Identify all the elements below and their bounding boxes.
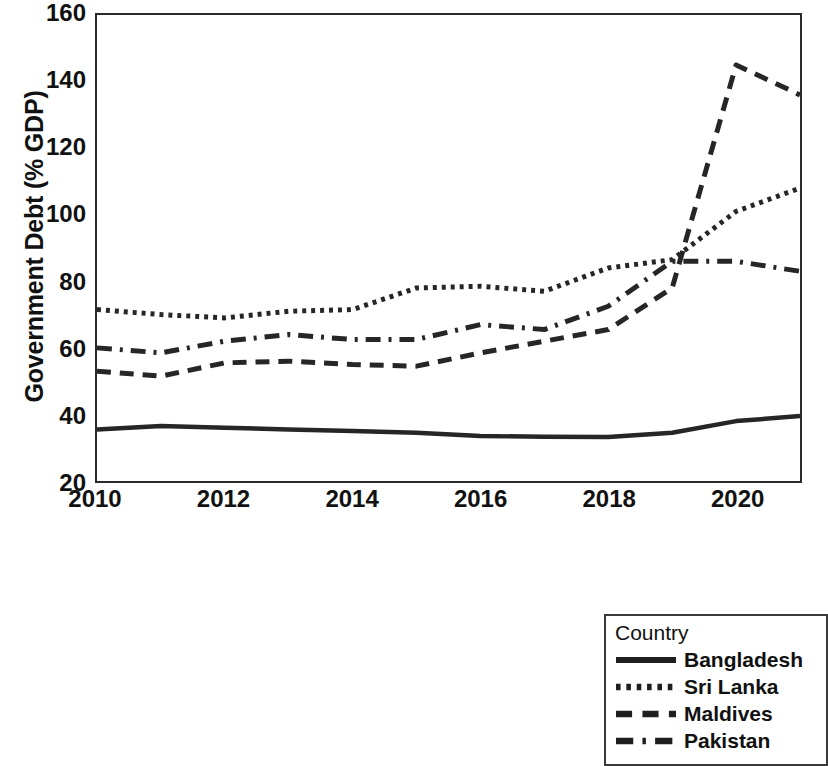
legend-item[interactable]: Maldives xyxy=(615,700,826,727)
y-tick-label: 160 xyxy=(8,1,86,25)
legend-item-label: Sri Lanka xyxy=(684,676,779,697)
series-line-pakistan xyxy=(97,261,800,353)
x-tick-label: 2020 xyxy=(678,487,798,511)
legend-item[interactable]: Sri Lanka xyxy=(615,673,826,700)
legend-title: Country xyxy=(615,621,826,644)
legend-line-swatch-pakistan xyxy=(615,731,677,751)
y-axis-title: Government Debt (% GDP) xyxy=(20,27,49,467)
legend-item-label: Bangladesh xyxy=(684,649,803,670)
series-line-maldives xyxy=(97,65,800,376)
plot-area xyxy=(95,13,802,483)
y-tick-label: 80 xyxy=(8,270,86,294)
y-tick-label: 100 xyxy=(8,202,86,226)
legend-item[interactable]: Pakistan xyxy=(615,727,826,754)
y-tick-label: 120 xyxy=(8,135,86,159)
x-tick-label: 2012 xyxy=(164,487,284,511)
y-tick-label: 60 xyxy=(8,337,86,361)
x-tick-label: 2016 xyxy=(421,487,541,511)
plot-lines xyxy=(97,15,800,481)
legend-line-swatch-bangladesh xyxy=(615,650,677,670)
x-tick-label: 2018 xyxy=(549,487,669,511)
series-line-bangladesh xyxy=(97,416,800,437)
legend-entries: BangladeshSri LankaMaldivesPakistan xyxy=(615,646,826,754)
legend-line-swatch-sri-lanka xyxy=(615,677,677,697)
y-tick-label: 40 xyxy=(8,404,86,428)
legend-item-label: Pakistan xyxy=(684,730,770,751)
x-tick-label: 2010 xyxy=(35,487,155,511)
x-tick-label: 2014 xyxy=(292,487,412,511)
legend-item[interactable]: Bangladesh xyxy=(615,646,826,673)
y-tick-label: 140 xyxy=(8,68,86,92)
legend-item-label: Maldives xyxy=(684,703,773,724)
legend-box: Country BangladeshSri LankaMaldivesPakis… xyxy=(604,614,828,766)
legend-line-swatch-maldives xyxy=(615,704,677,724)
